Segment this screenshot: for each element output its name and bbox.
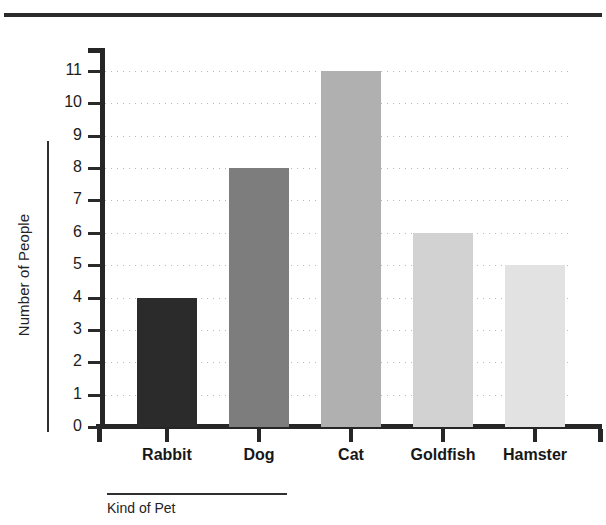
x-axis-tick [533,429,537,442]
x-axis-tick [165,429,169,442]
bar-goldfish [413,233,473,427]
x-axis-title: Kind of Pet [107,500,176,516]
x-axis-tick [349,429,353,442]
bar-rabbit [137,298,197,427]
bar-cat [321,71,381,427]
x-axis-title-rule [107,493,287,495]
bar-chart-figure: Number of People 01234567891011 RabbitDo… [0,0,606,525]
x-axis-tick [441,429,445,442]
bars-group [0,48,606,427]
bar-dog [229,168,289,427]
x-axis-right-end-tick [598,429,603,442]
x-axis-left-end-tick [97,429,102,442]
top-border-rule [4,13,602,17]
x-axis-label-hamster: Hamster [480,446,590,464]
bar-hamster [505,265,565,427]
x-axis-tick [257,429,261,442]
